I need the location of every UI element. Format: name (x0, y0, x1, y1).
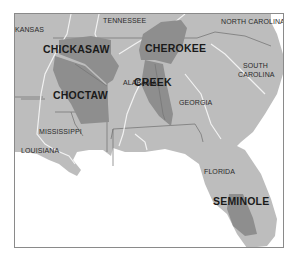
nation-label-choctaw: CHOCTAW (53, 89, 108, 101)
map-frame: ARKANSAS TENNESSEE NORTH CAROLINA SOUTH … (14, 13, 284, 248)
state-label-south-carolina-line1: SOUTH (243, 62, 268, 69)
state-label-florida: FLORIDA (204, 168, 235, 175)
state-label-south-carolina-line2: CAROLINA (238, 71, 275, 78)
nation-label-chickasaw: CHICKASAW (43, 43, 110, 55)
state-label-tennessee: TENNESSEE (103, 17, 146, 24)
nation-label-creek: CREEK (134, 76, 172, 88)
nation-label-seminole: SEMINOLE (213, 195, 269, 207)
state-label-north-carolina: NORTH CAROLINA (221, 18, 284, 25)
state-label-mississippi: MISSISSIPPI (39, 128, 82, 135)
state-label-louisiana: LOUISIANA (21, 147, 59, 154)
state-label-arkansas: ARKANSAS (14, 26, 44, 33)
state-label-georgia: GEORGIA (179, 99, 212, 106)
nation-label-cherokee: CHEROKEE (145, 42, 206, 54)
